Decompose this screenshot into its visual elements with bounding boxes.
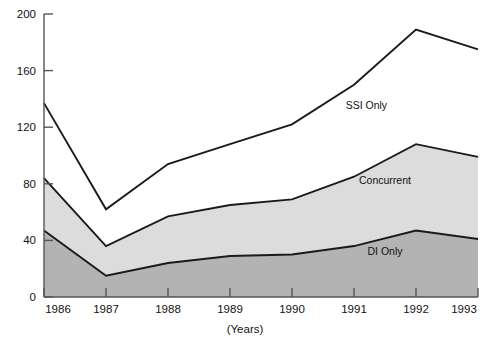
x-tick-label-1990: 1990 (279, 303, 305, 315)
y-tick-label-80: 80 (23, 178, 36, 190)
y-tick-label-160: 160 (17, 65, 36, 77)
x-tick-label-1991: 1991 (341, 303, 367, 315)
x-axis-title: (Years) (227, 323, 264, 335)
x-axis-tick-labels: 19861987198819891990199119921993 (45, 303, 477, 315)
x-tick-label-1989: 1989 (217, 303, 243, 315)
y-tick-label-0: 0 (30, 291, 36, 303)
x-tick-label-1987: 1987 (93, 303, 119, 315)
area-bands (44, 30, 478, 297)
y-axis-tick-labels: 04080120160200 (17, 8, 36, 303)
x-tick-label-1986: 1986 (45, 303, 71, 315)
x-tick-label-1992: 1992 (403, 303, 429, 315)
chart-svg: 04080120160200 1986198719881989199019911… (0, 0, 490, 343)
y-tick-label-120: 120 (17, 121, 36, 133)
x-tick-label-1993: 1993 (451, 303, 477, 315)
stacked-area-chart: 04080120160200 1986198719881989199019911… (0, 0, 490, 343)
series-label-ssi-only: SSI Only (346, 99, 388, 111)
y-tick-label-40: 40 (23, 234, 36, 246)
series-label-di-only: DI Only (367, 245, 403, 257)
x-tick-label-1988: 1988 (155, 303, 181, 315)
y-tick-label-200: 200 (17, 8, 36, 20)
series-label-concurrent: Concurrent (359, 174, 411, 186)
